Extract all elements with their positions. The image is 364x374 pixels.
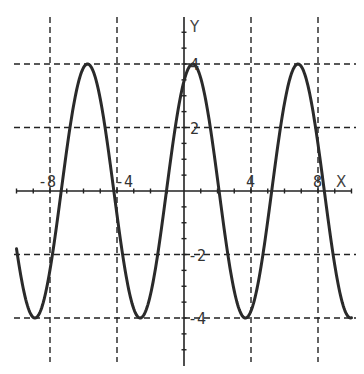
- y-tick-label: -2: [188, 247, 206, 265]
- x-axis-label: X: [336, 173, 346, 191]
- x-tick-label: -8: [38, 173, 56, 191]
- y-tick-label: -4: [188, 310, 206, 328]
- y-axis-label: Y: [189, 18, 200, 36]
- x-tick-label: -4: [115, 173, 133, 191]
- y-tick-label: 2: [190, 120, 199, 138]
- x-tick-label: 8: [313, 173, 322, 191]
- y-tick-label: 4: [190, 56, 199, 74]
- grid-lines: [14, 17, 356, 362]
- x-tick-label: 4: [246, 173, 255, 191]
- sine-chart: -8 -4 4 8 4 2 -2 -4 X Y: [0, 0, 364, 374]
